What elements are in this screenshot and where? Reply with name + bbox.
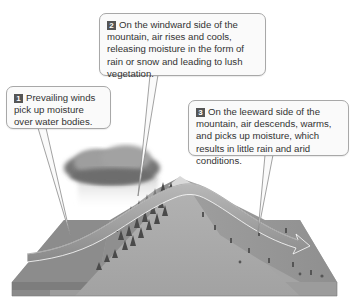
callout-3: 3On the leeward side of the mountain, ai…: [188, 100, 349, 156]
step-badge-2: 2: [107, 21, 116, 30]
pointer-1: [38, 128, 71, 238]
callout-1-text: Prevailing winds pick up moisture over w…: [14, 92, 95, 127]
callout-2-text: On the windward side of the mountain, ai…: [107, 19, 244, 79]
step-badge-3: 3: [196, 108, 205, 117]
step-badge-1: 1: [14, 94, 23, 103]
callout-1: 1Prevailing winds pick up moisture over …: [6, 86, 111, 129]
callout-2: 2On the windward side of the mountain, a…: [99, 13, 266, 76]
